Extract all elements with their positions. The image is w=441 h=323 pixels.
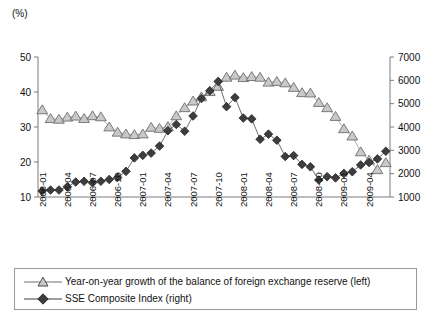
svg-text:2000: 2000 [398, 168, 421, 179]
svg-text:2008-01: 2008-01 [238, 172, 249, 207]
svg-text:2007-07: 2007-07 [188, 172, 199, 207]
svg-text:7000: 7000 [398, 52, 421, 63]
svg-text:2006-10: 2006-10 [112, 172, 123, 207]
chart-figure: (%) 102030405010002000300040005000600070… [0, 0, 441, 323]
svg-text:2007-04: 2007-04 [162, 172, 173, 207]
svg-text:6000: 6000 [398, 75, 421, 86]
svg-text:10: 10 [20, 192, 32, 203]
legend-item-sse-index: SSE Composite Index (right) [21, 290, 410, 307]
svg-text:2006-01: 2006-01 [37, 172, 48, 207]
svg-text:2006-07: 2006-07 [87, 172, 98, 207]
svg-text:2006-04: 2006-04 [62, 172, 73, 207]
svg-text:40: 40 [20, 87, 32, 98]
chart-legend: Year-on-year growth of the balance of fo… [14, 268, 417, 310]
svg-text:20: 20 [20, 157, 32, 168]
legend-label-sse-index: SSE Composite Index (right) [65, 292, 192, 306]
chart-plot-area: 10203040501000200030004000500060007000 2… [0, 0, 441, 265]
svg-text:2008-07: 2008-07 [288, 172, 299, 207]
legend-label-fx-reserve: Year-on-year growth of the balance of fo… [65, 275, 370, 289]
x-tick-labels-group: 2006-012006-042006-072006-102007-012007-… [37, 172, 375, 207]
svg-text:2008-10: 2008-10 [313, 172, 324, 207]
svg-text:5000: 5000 [398, 98, 421, 109]
triangle-marker-icon [21, 275, 65, 289]
svg-text:2009-01: 2009-01 [338, 172, 349, 207]
svg-text:1000: 1000 [398, 192, 421, 203]
svg-text:2008-04: 2008-04 [263, 172, 274, 207]
svg-text:2009-04: 2009-04 [364, 172, 375, 207]
svg-text:50: 50 [20, 52, 32, 63]
diamond-marker-icon [21, 292, 65, 306]
legend-item-fx-reserve: Year-on-year growth of the balance of fo… [21, 273, 410, 290]
svg-text:30: 30 [20, 122, 32, 133]
svg-text:2007-10: 2007-10 [213, 172, 224, 207]
svg-text:2007-01: 2007-01 [137, 172, 148, 207]
svg-text:4000: 4000 [398, 122, 421, 133]
svg-text:3000: 3000 [398, 145, 421, 156]
